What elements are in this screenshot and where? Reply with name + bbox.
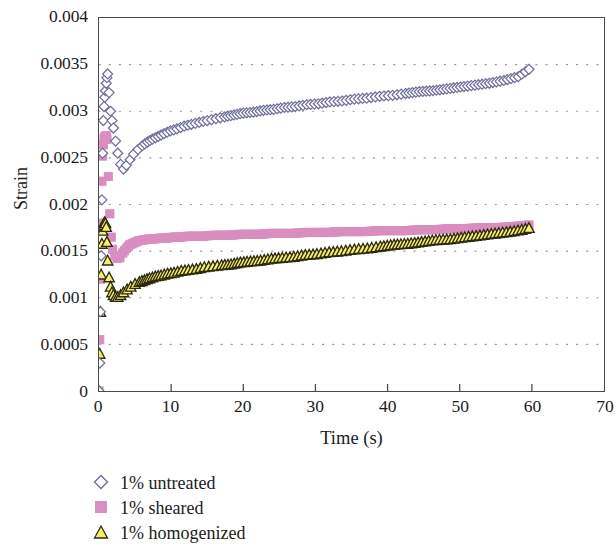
x-tick-label: 70 [575, 398, 616, 416]
legend-item-sheared: 1% sheared [88, 495, 388, 520]
diamond-marker-icon [88, 474, 114, 492]
x-tick-label: 0 [68, 398, 128, 416]
x-tick-label: 30 [285, 398, 345, 416]
y-tick-label: 0.0015 [0, 242, 88, 260]
x-axis-title: Time (s) [98, 428, 605, 449]
square-marker-icon [88, 499, 114, 517]
x-tick-label: 10 [140, 398, 200, 416]
chart-legend: 1% untreated 1% sheared 1% homogenized [88, 470, 388, 545]
x-tick-label: 20 [213, 398, 273, 416]
y-tick-label: 0.0035 [0, 55, 88, 73]
y-tick-label: 0.003 [0, 102, 88, 120]
x-tick-label: 40 [358, 398, 418, 416]
plot-area [98, 17, 605, 392]
triangle-marker-icon [88, 524, 114, 542]
legend-label-sheared: 1% sheared [114, 499, 203, 517]
y-tick-label: 0.001 [0, 289, 88, 307]
strain-vs-time-chart: Strain 00.00050.0010.00150.0020.00250.00… [0, 0, 616, 555]
legend-label-homogenized: 1% homogenized [114, 524, 245, 542]
x-tick-label: 50 [430, 398, 490, 416]
y-tick-label: 0.004 [0, 8, 88, 26]
legend-item-untreated: 1% untreated [88, 470, 388, 495]
legend-label-untreated: 1% untreated [114, 474, 215, 492]
y-tick-label: 0.0005 [0, 336, 88, 354]
x-axis-tick-labels: 010203040506070 [0, 398, 616, 424]
legend-item-homogenized: 1% homogenized [88, 520, 388, 545]
plot-canvas [99, 18, 604, 391]
y-tick-label: 0.0025 [0, 149, 88, 167]
x-tick-label: 60 [503, 398, 563, 416]
y-tick-label: 0.002 [0, 196, 88, 214]
